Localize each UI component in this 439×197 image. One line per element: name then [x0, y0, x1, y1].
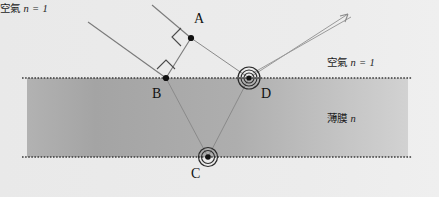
point-c-marker: [199, 148, 218, 167]
point-label-b: B: [152, 86, 161, 102]
point-label-d: D: [261, 86, 271, 102]
point-a-marker: [188, 35, 194, 41]
label-air-top-text: 空氣: [327, 57, 348, 68]
label-air-bottom-index: n = 1: [21, 3, 48, 14]
diagram-canvas: [0, 0, 439, 197]
label-film-index: n: [348, 113, 357, 124]
point-label-a: A: [194, 11, 204, 27]
label-air-bottom: 空氣n = 1: [0, 0, 48, 15]
label-film: 薄膜n: [327, 110, 356, 125]
label-film-text: 薄膜: [327, 113, 348, 124]
point-b-marker: [163, 75, 169, 81]
point-label-c: C: [191, 166, 200, 182]
label-air-top: 空氣n = 1: [327, 54, 375, 69]
label-air-bottom-text: 空氣: [0, 3, 21, 14]
label-air-top-index: n = 1: [348, 57, 375, 68]
point-d-marker: [238, 67, 260, 89]
thin-film-diagram: 空氣n = 1 薄膜n 空氣n = 1 A B C D: [0, 0, 439, 197]
